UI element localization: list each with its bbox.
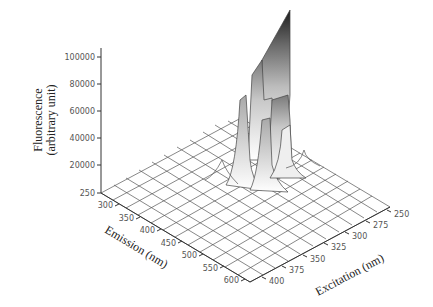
z-axis: 100000 80000 60000 40000 20000 250 — [64, 48, 101, 198]
z-label-line2: (arbitrary unit) — [44, 85, 58, 156]
excitation-tick-400: 400 — [269, 277, 284, 286]
emission-tick-550: 550 — [203, 264, 218, 273]
excitation-tick-350: 350 — [310, 255, 325, 264]
emission-tick-350: 350 — [119, 214, 134, 223]
z-tick-60000: 60000 — [70, 107, 95, 116]
emission-tick-600: 600 — [224, 276, 239, 285]
excitation-tick-300: 300 — [352, 232, 367, 241]
emission-tick-500: 500 — [182, 251, 197, 260]
emission-tick-450: 450 — [161, 239, 176, 248]
excitation-tick-275: 275 — [373, 221, 388, 230]
z-axis-label: Fluorescence (arbitrary unit) — [31, 85, 58, 156]
excitation-tick-250: 250 — [394, 210, 409, 219]
z-label-line1: Fluorescence — [31, 88, 45, 151]
peak-surface — [205, 10, 320, 192]
emission-tick-400: 400 — [140, 226, 155, 235]
excitation-tick-375: 375 — [289, 266, 304, 275]
z-tick-40000: 40000 — [70, 134, 95, 143]
z-tick-80000: 80000 — [70, 80, 95, 89]
emission-tick-300: 300 — [98, 201, 113, 210]
z-tick-100000: 100000 — [64, 53, 95, 62]
excitation-tick-325: 325 — [331, 243, 346, 252]
z-tick-20000: 20000 — [70, 161, 95, 170]
z-tick-250: 250 — [80, 189, 95, 198]
fluorescence-3d-surface-chart: 100000 80000 60000 40000 20000 250 Fluor… — [0, 0, 433, 307]
